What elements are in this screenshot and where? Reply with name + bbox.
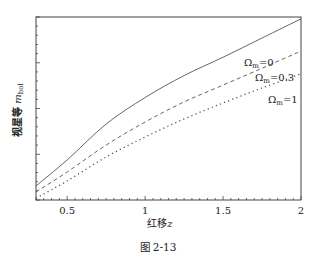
curves xyxy=(36,19,301,198)
x-tick-label: 0.5 xyxy=(59,205,75,216)
figure: 0.511.52 Ωm=0Ωm=0.3Ωm=1 红移z 视星等mbol 图 2-… xyxy=(0,0,317,259)
plot-frame xyxy=(36,17,301,200)
x-tick-label: 1 xyxy=(142,205,148,216)
x-tick-label: 2 xyxy=(298,205,304,216)
legend-label-dashed: Ωm=0.3 xyxy=(255,72,294,85)
series-line-dotted xyxy=(36,74,301,198)
series-line-solid xyxy=(36,19,301,186)
figure-caption: 图 2-13 xyxy=(140,241,177,253)
x-tick-label: 1.5 xyxy=(215,205,231,216)
legend-labels: Ωm=0Ωm=0.3Ωm=1 xyxy=(244,57,298,107)
legend-label-solid: Ωm=0 xyxy=(244,57,274,70)
y-axis-label: 视星等mbol xyxy=(11,83,25,137)
x-tick-labels: 0.511.52 xyxy=(59,205,304,216)
x-axis-label: 红移z xyxy=(147,217,173,229)
legend-label-dotted: Ωm=1 xyxy=(268,94,298,107)
minor-ticks xyxy=(36,17,301,200)
